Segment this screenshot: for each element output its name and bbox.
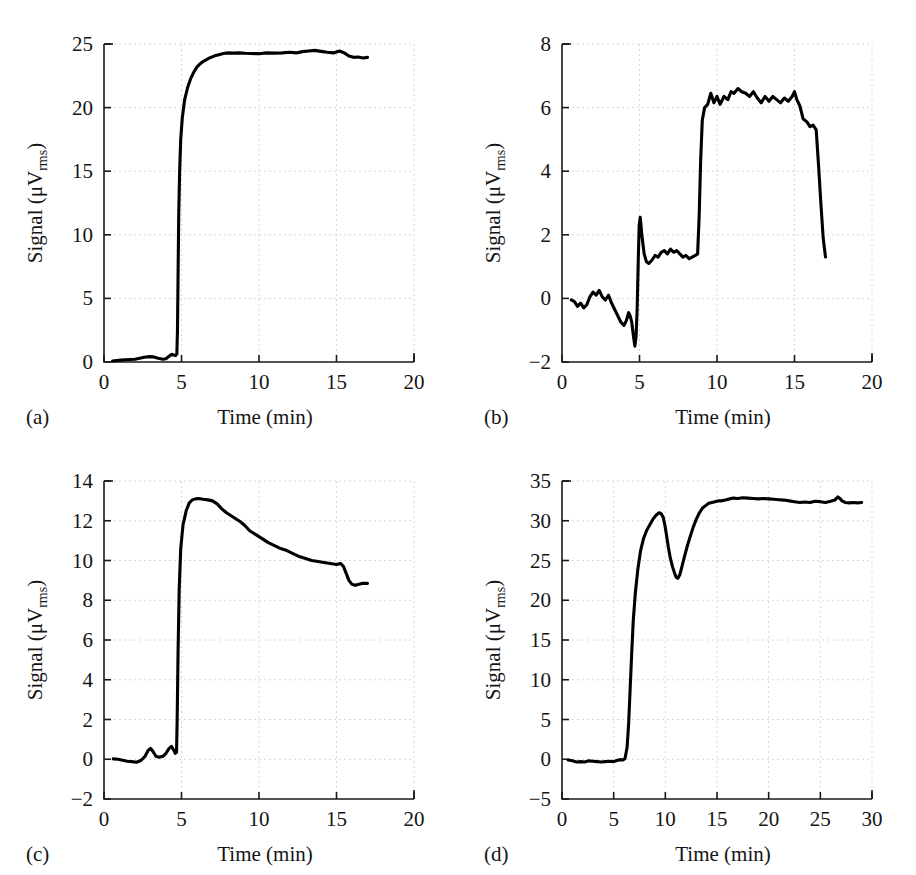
y-tick-label: 10	[530, 668, 551, 692]
x-tick-label: 15	[784, 370, 805, 394]
x-tick-label: 0	[99, 807, 110, 831]
grid-lines	[104, 44, 414, 362]
y-tick-label: 25	[530, 549, 551, 573]
y-tick-label: 0	[83, 747, 94, 771]
tick-group: −20246810121405101520	[71, 469, 425, 831]
y-tick-label: 5	[541, 708, 552, 732]
y-tick-label: 10	[72, 549, 93, 573]
x-tick-label: 10	[655, 807, 676, 831]
plot-svg-a: 051015202505101520Time (min)Signal (μVrm…	[0, 0, 458, 437]
x-tick-label: 25	[810, 807, 831, 831]
data-trace-c	[113, 498, 367, 762]
y-tick-label: 2	[83, 708, 94, 732]
grid-lines	[562, 44, 872, 362]
x-tick-label: 20	[404, 370, 425, 394]
chart-panel-c: −20246810121405101520Time (min)Signal (μ…	[0, 437, 458, 874]
x-tick-label: 0	[557, 370, 568, 394]
plot-svg-b: −20246805101520Time (min)Signal (μVrms)(…	[458, 0, 916, 437]
x-tick-label: 30	[862, 807, 883, 831]
y-tick-label: 4	[83, 668, 94, 692]
y-tick-label: 15	[530, 628, 551, 652]
y-axis-title: Signal (μVrms)	[23, 143, 50, 263]
panel-tag-a: (a)	[26, 405, 49, 429]
x-tick-label: 5	[634, 370, 645, 394]
y-tick-label: 12	[72, 509, 93, 533]
data-trace-d	[568, 497, 861, 762]
y-tick-label: 10	[72, 223, 93, 247]
x-tick-label: 5	[176, 807, 187, 831]
grid-lines	[562, 481, 872, 799]
y-tick-label: 25	[72, 32, 93, 56]
x-tick-label: 15	[326, 807, 347, 831]
y-tick-label: 15	[72, 159, 93, 183]
x-tick-label: 10	[249, 807, 270, 831]
plot-svg-d: −505101520253035051015202530Time (min)Si…	[458, 437, 916, 874]
y-tick-label: −2	[529, 350, 551, 374]
tick-group: 051015202505101520	[72, 32, 425, 394]
chart-panel-a: 051015202505101520Time (min)Signal (μVrm…	[0, 0, 458, 437]
y-tick-label: 0	[541, 747, 552, 771]
chart-panel-d: −505101520253035051015202530Time (min)Si…	[458, 437, 916, 874]
y-tick-label: 8	[541, 32, 552, 56]
y-tick-label: 35	[530, 469, 551, 493]
x-axis-title: Time (min)	[217, 842, 312, 866]
x-tick-label: 0	[557, 807, 568, 831]
x-tick-label: 10	[707, 370, 728, 394]
panel-tag-d: (d)	[484, 842, 509, 866]
y-tick-label: 0	[541, 286, 552, 310]
chart-panel-b: −20246805101520Time (min)Signal (μVrms)(…	[458, 0, 916, 437]
x-tick-label: 0	[99, 370, 110, 394]
data-trace-b	[571, 89, 825, 347]
y-tick-label: 14	[72, 469, 94, 493]
y-tick-label: 30	[530, 509, 551, 533]
x-tick-label: 15	[707, 807, 728, 831]
plot-svg-c: −20246810121405101520Time (min)Signal (μ…	[0, 437, 458, 874]
y-tick-label: 20	[72, 96, 93, 120]
panel-tag-c: (c)	[26, 842, 49, 866]
grid-lines	[104, 481, 414, 799]
x-tick-label: 20	[758, 807, 779, 831]
x-tick-label: 5	[608, 807, 619, 831]
y-tick-label: 6	[541, 96, 552, 120]
data-trace-a	[113, 50, 368, 361]
y-axis-title: Signal (μVrms)	[23, 580, 50, 700]
x-axis-title: Time (min)	[675, 842, 770, 866]
x-axis-title: Time (min)	[675, 405, 770, 429]
tick-group: −20246805101520	[529, 32, 883, 394]
y-tick-label: 8	[83, 588, 94, 612]
y-tick-label: 6	[83, 628, 94, 652]
y-tick-label: 0	[83, 350, 94, 374]
y-tick-label: −2	[71, 787, 93, 811]
y-tick-label: 2	[541, 223, 552, 247]
panel-tag-b: (b)	[484, 405, 509, 429]
y-tick-label: 4	[541, 159, 552, 183]
x-tick-label: 10	[249, 370, 270, 394]
x-tick-label: 20	[862, 370, 883, 394]
x-tick-label: 15	[326, 370, 347, 394]
y-tick-label: −5	[529, 787, 551, 811]
x-tick-label: 5	[176, 370, 187, 394]
y-tick-label: 5	[83, 286, 94, 310]
x-axis-title: Time (min)	[217, 405, 312, 429]
x-tick-label: 20	[404, 807, 425, 831]
figure-container: 051015202505101520Time (min)Signal (μVrm…	[0, 0, 916, 875]
tick-group: −505101520253035051015202530	[529, 469, 883, 831]
y-axis-title: Signal (μVrms)	[481, 580, 508, 700]
y-tick-label: 20	[530, 588, 551, 612]
y-axis-title: Signal (μVrms)	[481, 143, 508, 263]
